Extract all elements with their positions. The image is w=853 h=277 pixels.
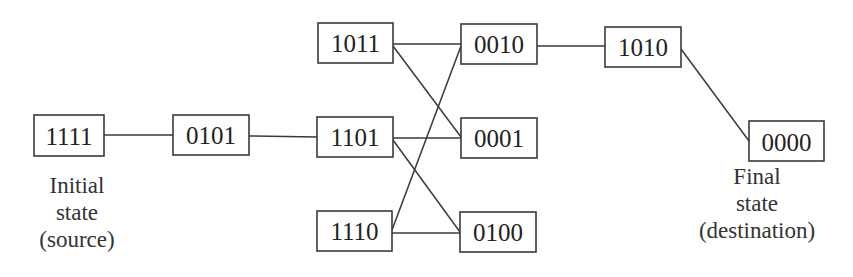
edge-1011-0001 (393, 46, 461, 137)
node-1111: 1111 (34, 115, 104, 156)
node-label: 1010 (618, 34, 668, 61)
edge-1101-0100 (393, 140, 460, 232)
node-label: 1011 (331, 30, 380, 57)
node-label: 0010 (474, 31, 524, 58)
destination-caption-line-1: Final (733, 164, 780, 189)
node-label: 0000 (762, 129, 812, 156)
node-1110: 1110 (317, 211, 392, 251)
edge-1010-0000 (681, 49, 749, 141)
node-1010: 1010 (605, 27, 681, 67)
captions-layer: Initial state (source) Final state (dest… (39, 164, 815, 252)
node-0100: 0100 (460, 212, 536, 252)
node-label: 1111 (45, 123, 92, 150)
node-label: 1101 (330, 124, 379, 151)
source-caption-line-1: Initial (50, 173, 105, 198)
node-label: 0100 (473, 219, 523, 246)
node-label: 0001 (474, 125, 524, 152)
node-0000: 0000 (749, 121, 824, 161)
source-caption: Initial state (source) (39, 173, 114, 252)
node-1011: 1011 (318, 23, 393, 63)
state-transition-diagram: 1111 0101 1011 1101 1110 0010 0001 0100 (0, 0, 853, 277)
source-caption-line-3: (source) (39, 227, 114, 252)
edge-0101-1101 (249, 136, 317, 137)
node-label: 0101 (186, 122, 236, 149)
node-0101: 0101 (173, 115, 249, 155)
node-0010: 0010 (461, 24, 537, 64)
destination-caption-line-2: state (736, 191, 778, 216)
source-caption-line-2: state (56, 200, 98, 225)
node-1101: 1101 (317, 117, 393, 157)
node-0001: 0001 (461, 118, 537, 158)
node-label: 1110 (330, 218, 378, 245)
destination-caption-line-3: (destination) (699, 218, 815, 243)
destination-caption: Final state (destination) (699, 164, 815, 243)
